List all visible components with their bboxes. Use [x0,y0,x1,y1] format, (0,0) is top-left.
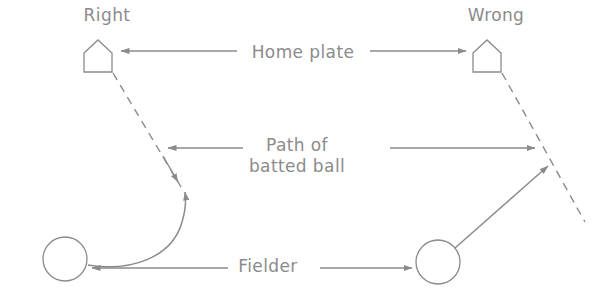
batted-ball-label-line1: Path of [266,136,328,155]
fielder-circle-icon-right [416,240,460,284]
home-plate-pentagon-icon-right [473,40,501,72]
fielder-route-curve-left [88,192,186,267]
fielder-label: Fielder [238,257,298,276]
baseball-fielding-diagram: Right Wrong Home plate Path of batted ba… [0,0,608,303]
home-plate-label: Home plate [252,43,355,62]
panel-title-wrong: Wrong [468,6,525,25]
fielder-circle-icon-left [43,237,87,281]
batted-ball-label-line2: batted ball [249,157,345,176]
home-plate-pentagon-icon-left [84,40,112,72]
ball-path-direction-arrow-left [163,156,178,182]
fielder-route-straight-right [455,166,548,248]
panel-title-right: Right [84,6,131,25]
